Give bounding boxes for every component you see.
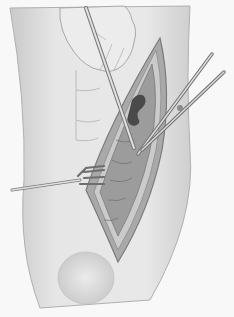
knee — [58, 252, 114, 304]
surgical-illustration — [0, 0, 234, 317]
illustration-canvas — [0, 0, 234, 317]
